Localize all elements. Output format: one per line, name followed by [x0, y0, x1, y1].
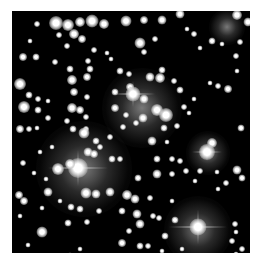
star — [232, 11, 242, 20]
star — [170, 199, 175, 204]
star — [26, 92, 33, 99]
star — [79, 128, 90, 139]
cluster-glow — [209, 11, 245, 45]
star — [33, 54, 40, 61]
star — [49, 16, 63, 30]
star — [121, 16, 132, 27]
star — [16, 125, 24, 133]
star — [224, 85, 232, 93]
star — [135, 38, 146, 49]
star — [180, 247, 185, 252]
star — [233, 166, 242, 175]
star — [135, 175, 142, 182]
star — [122, 190, 132, 200]
star — [126, 71, 132, 77]
star — [78, 247, 83, 252]
star — [191, 31, 197, 37]
star — [105, 51, 110, 56]
star — [109, 156, 116, 163]
star — [185, 27, 190, 32]
star — [139, 114, 148, 123]
star — [97, 144, 103, 150]
star — [192, 97, 197, 102]
star — [64, 118, 70, 124]
star — [28, 39, 33, 44]
diffraction-spike — [77, 150, 79, 186]
star — [78, 35, 86, 43]
star — [111, 104, 119, 112]
star — [244, 18, 251, 27]
star — [171, 78, 177, 84]
star — [46, 99, 51, 104]
star — [131, 195, 140, 204]
star — [84, 94, 90, 100]
diffraction-spike — [206, 143, 208, 161]
star — [150, 213, 156, 219]
star — [181, 104, 187, 110]
star — [14, 78, 26, 90]
star — [65, 220, 72, 227]
star — [177, 158, 183, 164]
star — [107, 134, 113, 140]
star — [76, 106, 84, 114]
star — [35, 96, 41, 102]
star — [92, 190, 101, 199]
star — [165, 140, 170, 145]
star — [126, 83, 134, 91]
cluster-glow — [102, 68, 182, 148]
star — [18, 101, 30, 113]
diffraction-spike — [111, 93, 155, 95]
star — [154, 156, 161, 163]
star — [37, 227, 48, 238]
star — [197, 168, 203, 174]
star — [32, 171, 37, 176]
star — [237, 39, 243, 45]
star — [169, 171, 175, 177]
star — [67, 66, 74, 73]
star — [147, 195, 153, 201]
star — [120, 124, 126, 130]
star — [40, 206, 45, 211]
star — [117, 68, 124, 75]
star — [220, 42, 225, 47]
star — [148, 137, 157, 146]
star — [84, 219, 90, 225]
star — [52, 59, 58, 65]
star — [152, 36, 158, 42]
diffraction-spike — [197, 210, 199, 245]
cluster-glow — [164, 196, 232, 253]
star — [159, 108, 173, 122]
star — [35, 126, 40, 131]
star — [123, 112, 129, 118]
diffraction-spike — [169, 226, 227, 228]
star — [84, 148, 93, 157]
star — [38, 150, 43, 155]
star — [19, 53, 27, 61]
star — [183, 168, 189, 174]
star — [62, 19, 74, 31]
star — [172, 217, 179, 224]
star — [70, 126, 77, 133]
star — [18, 214, 23, 219]
star — [223, 180, 229, 186]
star — [26, 126, 32, 132]
star — [83, 126, 89, 132]
star — [153, 170, 162, 179]
star — [146, 73, 155, 82]
star — [91, 47, 97, 53]
star — [112, 89, 119, 96]
diffraction-spike — [48, 167, 108, 169]
star — [234, 252, 239, 254]
star — [141, 49, 147, 55]
star — [239, 175, 246, 182]
star — [160, 249, 165, 254]
star — [96, 208, 102, 214]
star-cluster-image — [12, 11, 250, 253]
star — [232, 221, 238, 227]
star — [133, 120, 139, 126]
star — [83, 73, 91, 81]
star — [234, 230, 239, 235]
star — [86, 15, 99, 28]
star — [235, 69, 240, 74]
star — [90, 150, 98, 158]
